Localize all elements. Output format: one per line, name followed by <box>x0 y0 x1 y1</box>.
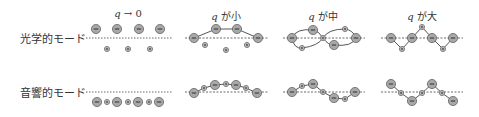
ion-displacement-canvas <box>0 0 479 117</box>
phonon-mode-diagram: 光学的モード 音響的モード q → 0 q が小 q が中 q が大 <box>0 0 479 117</box>
displacement-chain <box>194 29 258 38</box>
